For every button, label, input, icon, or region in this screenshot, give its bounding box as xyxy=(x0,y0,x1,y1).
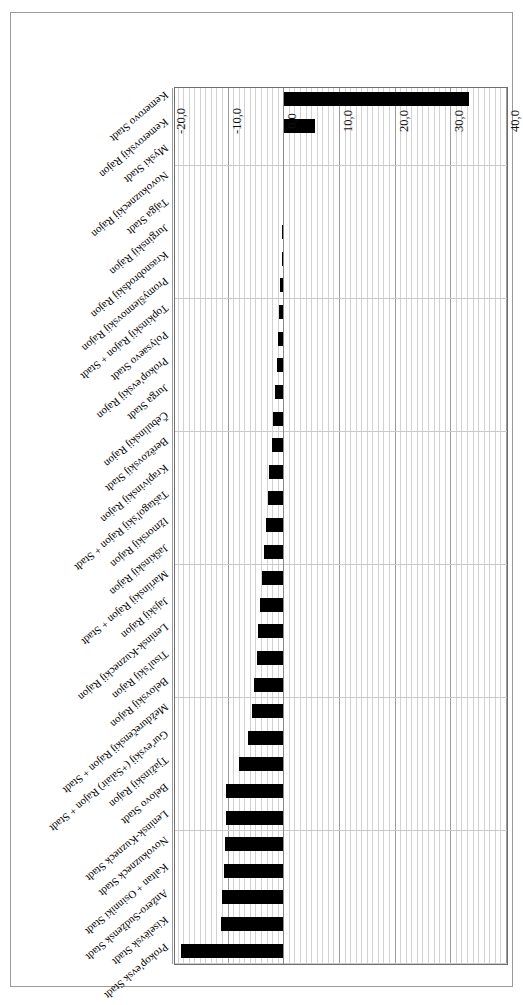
minor-gridline xyxy=(367,88,368,964)
horizontal-gridline xyxy=(175,431,507,432)
minor-gridline xyxy=(233,88,234,964)
minor-gridline xyxy=(445,88,446,964)
bar xyxy=(226,784,284,798)
bar xyxy=(222,891,284,905)
horizontal-gridline xyxy=(175,298,507,299)
bar xyxy=(258,624,284,638)
minor-gridline xyxy=(356,88,357,964)
plot-area xyxy=(174,87,508,965)
x-tick-label: -10,0 xyxy=(230,91,245,151)
major-gridline xyxy=(506,88,507,964)
x-tick-label: 40,0 xyxy=(508,91,523,151)
minor-gridline xyxy=(189,88,190,964)
minor-gridline xyxy=(495,88,496,964)
x-tick-label: 10,0 xyxy=(341,91,356,151)
minor-gridline xyxy=(372,88,373,964)
bar xyxy=(264,545,285,559)
minor-gridline xyxy=(434,88,435,964)
minor-gridline xyxy=(178,88,179,964)
minor-gridline xyxy=(484,88,485,964)
minor-gridline xyxy=(328,88,329,964)
zero-axis-line xyxy=(283,88,284,964)
minor-gridline xyxy=(211,88,212,964)
minor-gridline xyxy=(456,88,457,964)
minor-gridline xyxy=(194,88,195,964)
minor-gridline xyxy=(183,88,184,964)
minor-gridline xyxy=(350,88,351,964)
minor-gridline xyxy=(333,88,334,964)
minor-gridline xyxy=(384,88,385,964)
bar xyxy=(181,944,284,958)
x-tick-label: 30,0 xyxy=(452,91,467,151)
minor-gridline xyxy=(467,88,468,964)
major-gridline xyxy=(395,88,396,964)
x-tick-label: -20,0 xyxy=(174,91,189,151)
horizontal-gridline xyxy=(175,165,507,166)
major-gridline xyxy=(339,88,340,964)
minor-gridline xyxy=(489,88,490,964)
minor-gridline xyxy=(261,88,262,964)
major-gridline xyxy=(228,88,229,964)
minor-gridline xyxy=(322,88,323,964)
minor-gridline xyxy=(439,88,440,964)
bar xyxy=(224,864,284,878)
minor-gridline xyxy=(289,88,290,964)
horizontal-gridline xyxy=(175,830,507,831)
bar xyxy=(284,92,469,106)
minor-gridline xyxy=(500,88,501,964)
bar xyxy=(248,731,285,745)
bar xyxy=(269,465,284,479)
horizontal-gridline xyxy=(175,963,507,964)
figure-page: 40,030,020,010,00,0-10,0-20,0 Prokop'evs… xyxy=(0,0,523,1005)
minor-gridline xyxy=(428,88,429,964)
minor-gridline xyxy=(417,88,418,964)
horizontal-gridline xyxy=(175,697,507,698)
minor-gridline xyxy=(378,88,379,964)
minor-gridline xyxy=(222,88,223,964)
minor-gridline xyxy=(317,88,318,964)
minor-gridline xyxy=(389,88,390,964)
minor-gridline xyxy=(473,88,474,964)
minor-gridline xyxy=(295,88,296,964)
minor-gridline xyxy=(300,88,301,964)
major-gridline xyxy=(450,88,451,964)
rotated-chart-container: 40,030,020,010,00,0-10,0-20,0 Prokop'evs… xyxy=(0,0,523,1005)
minor-gridline xyxy=(411,88,412,964)
bar xyxy=(266,518,284,532)
horizontal-gridline xyxy=(175,564,507,565)
bar xyxy=(260,598,284,612)
x-tick-label: 0,0 xyxy=(285,91,300,151)
bar xyxy=(257,651,285,665)
bar xyxy=(239,758,285,772)
minor-gridline xyxy=(462,88,463,964)
minor-gridline xyxy=(239,88,240,964)
minor-gridline xyxy=(256,88,257,964)
bar xyxy=(221,917,284,931)
minor-gridline xyxy=(361,88,362,964)
major-gridline xyxy=(172,88,173,964)
minor-gridline xyxy=(478,88,479,964)
bar xyxy=(254,678,284,692)
minor-gridline xyxy=(306,88,307,964)
minor-gridline xyxy=(200,88,201,964)
minor-gridline xyxy=(400,88,401,964)
minor-gridline xyxy=(217,88,218,964)
bar xyxy=(262,571,284,585)
minor-gridline xyxy=(205,88,206,964)
x-tick-label: 20,0 xyxy=(397,91,412,151)
bar xyxy=(252,704,285,718)
bar xyxy=(225,837,284,851)
minor-gridline xyxy=(423,88,424,964)
minor-gridline xyxy=(406,88,407,964)
minor-gridline xyxy=(244,88,245,964)
minor-gridline xyxy=(345,88,346,964)
minor-gridline xyxy=(311,88,312,964)
bar xyxy=(226,811,285,825)
bar xyxy=(268,491,285,505)
minor-gridline xyxy=(250,88,251,964)
